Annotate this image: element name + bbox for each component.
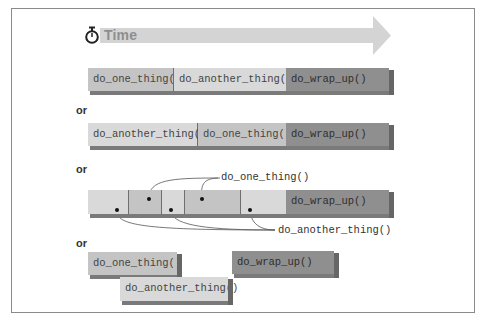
segment-do-another-thing: [162, 190, 185, 214]
segment-do-wrap-up: do_wrap_up(): [286, 190, 389, 214]
bevel: [90, 214, 389, 218]
bevel: [334, 253, 339, 278]
callout-do-one-thing: do_one_thing(): [221, 171, 309, 183]
marker-dot: [169, 208, 173, 212]
bevel: [389, 192, 394, 218]
marker-dot: [115, 208, 119, 212]
segment-do-another-thing: [88, 190, 129, 214]
bevel: [234, 274, 334, 278]
segment-do-another-thing: do_another_thing(): [120, 277, 228, 301]
marker-dot: [200, 197, 204, 201]
or-label: or: [76, 237, 87, 249]
callout-do-another-thing: do_another_thing(): [278, 224, 391, 236]
bevel: [177, 254, 182, 279]
segment-do-one-thing: [185, 190, 241, 214]
segment-do-wrap-up: do_wrap_up(): [232, 251, 334, 274]
bevel: [122, 301, 228, 305]
segment-do-one-thing: [129, 190, 162, 214]
marker-dot: [248, 208, 252, 212]
marker-dot: [147, 197, 151, 201]
bevel: [228, 279, 233, 305]
segment-do-one-thing: do_one_thing(): [88, 252, 177, 275]
